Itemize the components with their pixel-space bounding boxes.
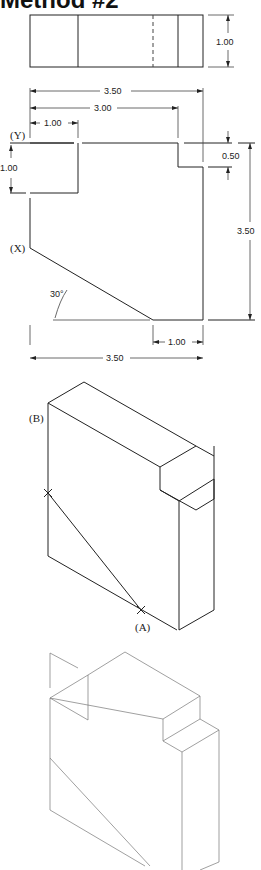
step-depth-dim: 0.50 bbox=[222, 151, 240, 161]
overall-width-bottom-dim: 3.50 bbox=[106, 353, 124, 363]
point-a-label: (A) bbox=[135, 621, 151, 634]
front-view: 3.50 3.00 1.00 1.00 0.50 3.50 1.00 3.50 … bbox=[0, 86, 255, 363]
overall-width-top-dim: 3.50 bbox=[104, 86, 122, 96]
point-x-label: (X) bbox=[10, 242, 26, 255]
top-height-dim: 1.00 bbox=[216, 37, 234, 47]
bottom-flat-dim: 1.00 bbox=[168, 337, 186, 347]
top-view: 1.00 bbox=[30, 15, 234, 67]
angle-dim: 30° bbox=[50, 289, 64, 299]
drawing-canvas: 1.00 3.50 3.00 1.00 1.00 bbox=[0, 0, 261, 870]
point-b-label: (B) bbox=[29, 412, 44, 425]
iso2-fragment bbox=[50, 653, 78, 688]
iso2-top-face bbox=[50, 652, 200, 719]
iso-outline bbox=[48, 403, 214, 630]
iso2-edge bbox=[163, 719, 200, 741]
notch-depth-dim: 1.00 bbox=[0, 163, 18, 173]
iso2-step bbox=[163, 696, 219, 870]
notch-width-dim: 1.00 bbox=[44, 118, 62, 128]
point-y-label: (Y) bbox=[10, 129, 26, 142]
final-isometric-view bbox=[50, 652, 219, 870]
iso-step bbox=[160, 479, 214, 630]
iso-top-face bbox=[48, 382, 196, 467]
iso2-edges bbox=[50, 675, 150, 866]
top-view-outline bbox=[30, 15, 203, 67]
iso-construction-line-xy bbox=[48, 493, 141, 610]
width-to-step-dim: 3.00 bbox=[94, 103, 112, 113]
overall-height-dim: 3.50 bbox=[237, 226, 255, 236]
arrowheads bbox=[9, 89, 252, 360]
isometric-view: (B) (A) bbox=[29, 382, 214, 634]
